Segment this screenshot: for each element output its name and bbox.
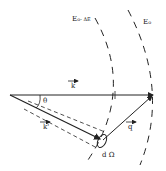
outer-energy-label: Eo bbox=[143, 18, 151, 26]
k-label: k bbox=[71, 82, 75, 90]
scattering-diagram bbox=[0, 0, 166, 171]
outer-energy-arc bbox=[128, 10, 153, 165]
q-label: q bbox=[128, 123, 132, 131]
inner-energy-arc bbox=[88, 18, 113, 160]
theta-label: θ bbox=[43, 97, 47, 105]
solid-angle-ellipse bbox=[95, 133, 108, 149]
scattered-vector-k-prime bbox=[10, 95, 100, 139]
k-prime-label: k' bbox=[43, 123, 49, 131]
cone-edge-upper bbox=[28, 101, 105, 132]
cone-edge-lower bbox=[24, 109, 97, 148]
solid-angle-label: d Ω bbox=[102, 151, 115, 159]
momentum-transfer-q bbox=[103, 96, 152, 140]
theta-angle-arc bbox=[36, 95, 40, 108]
inner-energy-label: Eo- ΔE bbox=[72, 15, 91, 23]
